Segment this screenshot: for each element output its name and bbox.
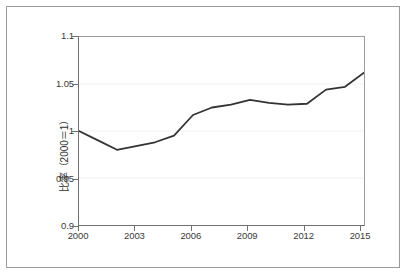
x-tick-label: 2003 bbox=[112, 230, 156, 241]
plot-area bbox=[78, 36, 365, 226]
x-tick-mark bbox=[304, 226, 305, 231]
plot-wrapper: 比率（2000＝1） 1.1 1.05 1 0.95 0.9 2000 2003… bbox=[0, 0, 406, 275]
chart-figure: 比率（2000＝1） 1.1 1.05 1 0.95 0.9 2000 2003… bbox=[0, 0, 406, 275]
x-tick-label: 2006 bbox=[169, 230, 213, 241]
x-tick-mark bbox=[247, 226, 248, 231]
gridlines bbox=[79, 84, 364, 178]
x-tick-mark bbox=[360, 226, 361, 231]
x-tick-label: 2012 bbox=[282, 230, 326, 241]
x-tick-label: 2000 bbox=[56, 230, 100, 241]
x-tick-label: 2015 bbox=[338, 230, 382, 241]
x-tick-mark bbox=[134, 226, 135, 231]
line-chart-svg bbox=[79, 37, 364, 225]
x-tick-mark bbox=[191, 226, 192, 231]
x-tick-label: 2009 bbox=[225, 230, 269, 241]
x-tick-mark bbox=[78, 226, 79, 231]
